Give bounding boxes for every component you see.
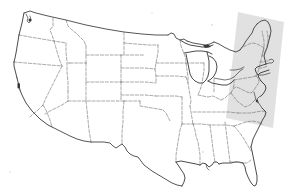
state-borders-west <box>14 18 140 144</box>
san-francisco-bay-mark <box>18 83 20 89</box>
pacific-coastline <box>14 13 52 127</box>
florida-peninsula <box>243 147 257 186</box>
lake-michigan-shore <box>186 52 209 83</box>
gulf-coastline <box>176 161 243 186</box>
lake-superior-fill <box>203 45 211 48</box>
us-map-figure: Map of the contiguous United States Blac… <box>0 0 284 194</box>
puget-sound-mark <box>29 19 32 22</box>
canada-border <box>24 11 271 52</box>
us-map-svg: Map of the contiguous United States Blac… <box>0 0 284 194</box>
state-borders-plains <box>121 32 231 162</box>
mexico-border <box>52 127 182 186</box>
scan-artifacts <box>9 12 212 172</box>
